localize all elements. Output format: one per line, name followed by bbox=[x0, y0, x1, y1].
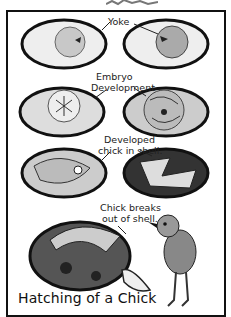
egg-yoke-left bbox=[22, 20, 106, 68]
label-embryo-line1: Embryo bbox=[96, 71, 133, 82]
egg-hatching bbox=[30, 222, 130, 290]
egg-illustrations bbox=[0, 0, 231, 317]
label-developed-line2: chick in shell. bbox=[98, 145, 162, 156]
egg-embryo-right bbox=[124, 88, 208, 136]
label-yoke: Yoke bbox=[108, 16, 129, 27]
shell-fragment bbox=[122, 269, 150, 291]
egg-developed-left bbox=[22, 149, 106, 197]
label-breaks-line2: out of shell. bbox=[102, 213, 158, 224]
egg-embryo-left bbox=[20, 88, 104, 136]
egg-yoke-right bbox=[124, 20, 208, 68]
label-embryo-line2: Development bbox=[91, 82, 155, 93]
label-developed-line1: Developed bbox=[104, 134, 155, 145]
diagram-title: Hatching of a Chick bbox=[18, 290, 156, 306]
egg-developed-right bbox=[124, 149, 208, 197]
label-breaks-line1: Chick breaks bbox=[100, 202, 161, 213]
